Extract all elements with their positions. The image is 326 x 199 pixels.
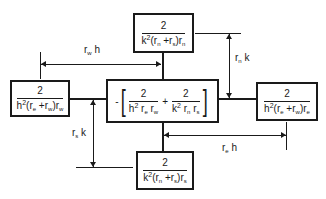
connector-right (217, 98, 257, 100)
left-node-box: 2 h2(re +rw)rw (10, 80, 70, 117)
re-h-dimension-line (164, 135, 286, 136)
arrow-up-icon (90, 100, 96, 105)
fraction: 2 h2(re +rw)re (264, 89, 310, 114)
right-node-box: 2 h2(re +rw)re (256, 82, 318, 121)
re-h-extension-line (286, 122, 287, 150)
arrow-down-icon (90, 162, 96, 167)
rn-k-dimension-line (229, 34, 230, 98)
top-node-box: 2 k2(rn +rs)rn (133, 13, 194, 53)
arrow-left-icon (164, 132, 169, 138)
rw-h-label: rw h (84, 44, 100, 55)
rw-h-dimension-line (41, 64, 161, 65)
bottom-node-box: 2 k2(rn +rs)rs (136, 151, 194, 190)
arrow-right-icon (281, 132, 286, 138)
arrow-up-icon (226, 34, 232, 39)
fraction: 2 k2(rn +rs)rs (143, 158, 187, 183)
connector-left (68, 98, 107, 100)
rs-k-label: rs k (72, 127, 86, 138)
fraction: 2 k2(rn +rs)rn (142, 21, 186, 46)
rs-k-dimension-line (93, 100, 94, 167)
arrow-down-icon (226, 93, 232, 98)
fraction-term2: 2 k2 rn rs (172, 89, 199, 114)
rs-k-extension-line (76, 167, 133, 168)
rn-k-label: rn k (235, 52, 249, 63)
center-node-box: - [ 2 h2 re rw + 2 k2 rn rs ] (106, 79, 219, 123)
fraction: 2 h2(re +rw)rw (17, 86, 64, 111)
arrow-right-icon (156, 61, 161, 67)
re-h-label: re h (222, 142, 237, 153)
fraction-term1: 2 h2 re rw (129, 89, 158, 114)
rn-k-extension-line (195, 33, 241, 34)
center-expression: - [ 2 h2 re rw + 2 k2 rn rs ] (115, 86, 210, 116)
arrow-left-icon (41, 61, 46, 67)
connector-top (162, 52, 164, 80)
